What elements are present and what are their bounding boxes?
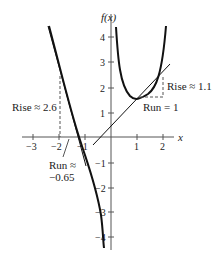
rise-left-label: Rise ≈ 2.6 [12,101,57,113]
y-tick-label: 3 [100,57,105,68]
x-tick-label: 1 [134,141,139,152]
y-tick-label: 1 [100,108,105,119]
right-rise-run-dashes [140,76,163,97]
right-branch-curve [116,26,166,99]
run-left-label: Run ≈ [49,159,76,171]
x-tick-label: 2 [160,141,165,152]
x-tick-label: −2 [51,141,62,152]
rise-right-label: Rise ≈ 1.1 [167,80,212,92]
y-axis-label: f(x) [101,11,117,24]
function-graph: −3 −2 −1 1 2 4 3 2 1 −1 −2 −3 −4 f(x) x … [0,0,218,260]
y-tick-label: 4 [100,32,105,43]
left-run-pointer [63,139,69,157]
run-right-label: Run = 1 [143,101,179,113]
run-left-value: −0.65 [49,171,75,183]
y-tick-label: −1 [95,158,106,169]
y-tick-label: 2 [100,83,105,94]
x-tick-label: −3 [26,141,37,152]
x-axis-label: x [177,131,183,143]
